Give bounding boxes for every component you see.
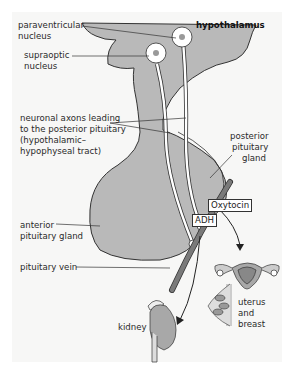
label-paraventricular-2: nucleus xyxy=(18,31,51,42)
label-axons-4: hypophyseal tract) xyxy=(20,146,101,157)
label-axons-2: to the posterior pituitary xyxy=(20,124,126,135)
label-uterus-3: breast xyxy=(238,319,265,330)
label-supraoptic-2: nucleus xyxy=(24,61,57,72)
label-pituitary-vein: pituitary vein xyxy=(20,262,77,273)
label-axons: neuronal axons leading xyxy=(20,113,120,124)
label-supraoptic: supraoptic xyxy=(24,50,69,61)
label-axons-3: (hypothalamic– xyxy=(20,135,86,146)
hormone-oxytocin-box: Oxytocin xyxy=(208,199,252,212)
label-posterior-pituitary-2: pituitary xyxy=(232,142,268,153)
kidney-illustration xyxy=(148,300,176,362)
label-uterus-2: and xyxy=(238,308,254,319)
label-posterior-pituitary: posterior xyxy=(230,131,269,142)
label-uterus: uterus xyxy=(238,297,266,308)
hormone-adh-box: ADH xyxy=(192,214,217,227)
label-paraventricular: paraventricular xyxy=(18,20,84,31)
label-posterior-pituitary-3: gland xyxy=(242,153,266,164)
breast-illustration xyxy=(208,284,232,326)
label-anterior-pituitary: anterior xyxy=(20,220,54,231)
oxytocin-arrow xyxy=(220,210,240,245)
label-kidney: kidney xyxy=(118,322,147,333)
uterus-illustration xyxy=(215,263,279,289)
label-anterior-pituitary-2: pituitary gland xyxy=(20,231,83,242)
label-hypothalamus: hypothalamus xyxy=(196,20,265,31)
